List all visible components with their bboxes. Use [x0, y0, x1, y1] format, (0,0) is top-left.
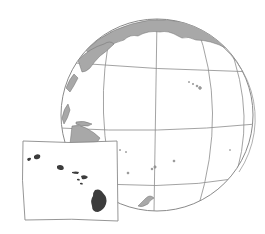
map-canvas: Hawaiian Islands [0, 0, 265, 234]
map-figure: Orthographic globe centered on the Pacif… [0, 0, 265, 234]
hawaii-island-globe [199, 87, 202, 90]
inset-frame [22, 141, 118, 221]
